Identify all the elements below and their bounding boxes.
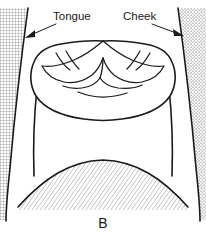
cheek-region bbox=[178, 8, 206, 221]
vestibule-wall-left bbox=[34, 88, 37, 176]
lower-arch-fill bbox=[18, 160, 188, 210]
tongue-arrowhead-icon bbox=[25, 30, 35, 38]
vestibule-wall-right bbox=[169, 88, 172, 176]
tongue-leader-line bbox=[33, 24, 56, 34]
cheek-leader-line bbox=[152, 24, 176, 33]
panel-label-b: B bbox=[98, 215, 107, 231]
figure-canvas: Tongue Cheek B bbox=[0, 0, 206, 232]
label-tongue: Tongue bbox=[53, 10, 91, 22]
lower-arch-region bbox=[18, 160, 188, 210]
molar-tooth bbox=[31, 41, 175, 121]
label-cheek: Cheek bbox=[123, 10, 156, 22]
cheek-leader bbox=[152, 24, 184, 36]
tongue-leader bbox=[25, 24, 56, 38]
tooth-outline bbox=[31, 41, 175, 121]
dental-anatomy-figure: Tongue Cheek B bbox=[0, 0, 206, 232]
tongue-region bbox=[0, 8, 28, 221]
